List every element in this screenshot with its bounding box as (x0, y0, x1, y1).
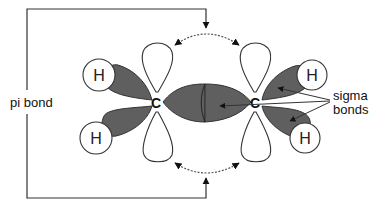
hydrogen-label: H (90, 130, 102, 147)
p-orbital-right-bottom (241, 112, 271, 162)
hydrogen-label: H (299, 130, 311, 147)
sigma-bonds-label-line2: bonds (333, 102, 369, 117)
carbon-label-right: C (250, 95, 260, 111)
pi-overlap-arc-bottom (175, 163, 239, 173)
hydrogen-label: H (306, 67, 318, 84)
p-orbital-left-bottom (143, 112, 173, 162)
hydrogen-atom-bottom-right: H (290, 123, 320, 153)
hydrogen-atom-bottom-left: H (80, 122, 112, 154)
carbon-label-left: C (151, 95, 161, 111)
hydrogen-atom-top-right: H (297, 60, 327, 90)
carbon-carbon-sigma-bond (163, 84, 251, 122)
p-orbital-left-top (142, 43, 172, 92)
sigma-bonds-label-line1: sigma (333, 88, 368, 103)
hydrogen-atom-top-left: H (83, 59, 115, 91)
pi-bond-label: pi bond (10, 95, 53, 110)
pi-overlap-arc-top (175, 34, 239, 45)
p-orbital-right-top (240, 43, 270, 92)
ethene-orbital-diagram: H H H H C C pi bond sigma bonds (0, 0, 379, 205)
hydrogen-label: H (93, 67, 105, 84)
